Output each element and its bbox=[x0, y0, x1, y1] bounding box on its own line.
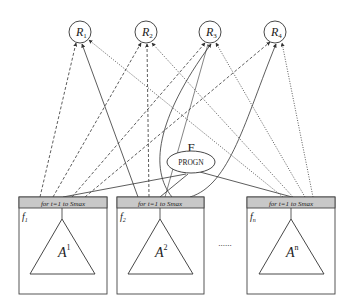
edge-f1-r4 bbox=[85, 42, 270, 197]
resource-R4: R4 bbox=[264, 21, 286, 43]
diagram-canvas: R1 R2 R3 R4 F PROGN for t=1 to Smax f1 A… bbox=[0, 0, 353, 300]
edge-f2-r3 bbox=[165, 44, 208, 197]
edge-f2-r1 bbox=[82, 44, 138, 197]
ellipsis: ...... bbox=[218, 238, 232, 248]
edge-progn-f2 bbox=[160, 174, 188, 197]
edge-f1-r2 bbox=[53, 43, 141, 197]
edge-progn-f1 bbox=[63, 174, 186, 197]
resource-R1: R1 bbox=[69, 21, 91, 43]
resource-R3: R3 bbox=[199, 21, 221, 43]
loop-header: for t=1 to Smax bbox=[138, 200, 183, 208]
function-box-f1: for t=1 to Smax f1 A1 bbox=[19, 197, 107, 294]
edge-f2-r2 bbox=[147, 44, 149, 197]
edge-f2-r4-curve bbox=[190, 44, 276, 197]
function-box-f2: for t=1 to Smax f2 A2 bbox=[117, 197, 204, 294]
function-box-fn: for t=1 to Smax fn An bbox=[247, 197, 335, 294]
resource-R2: R2 bbox=[135, 21, 157, 43]
loop-header: for t=1 to Smax bbox=[41, 200, 86, 208]
edge-progn-fn bbox=[200, 172, 292, 197]
edge-fn-r2 bbox=[152, 43, 293, 197]
edge-fn-r4 bbox=[282, 43, 313, 197]
progn-node: PROGN bbox=[167, 151, 215, 173]
connections bbox=[40, 40, 313, 197]
edge-f1-r1 bbox=[40, 43, 76, 197]
edge-fn-r3 bbox=[216, 43, 305, 197]
edge-fn-r1 bbox=[89, 40, 283, 197]
loop-header: for t=1 to Smax bbox=[269, 200, 314, 208]
svg-text:PROGN: PROGN bbox=[178, 158, 204, 167]
